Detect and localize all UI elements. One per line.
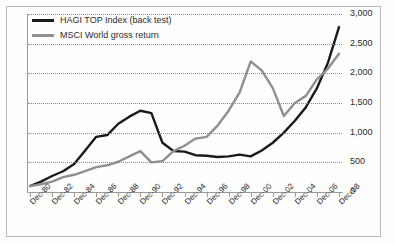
gridline-horizontal [28, 44, 342, 45]
y-axis-tick-label: 1,000 [350, 127, 373, 137]
legend-label-msci: MSCI World gross return [60, 30, 159, 40]
y-axis-tick-label: 1,500 [350, 97, 373, 107]
legend-line-swatch-msci [32, 34, 54, 37]
legend-label-hagi: HAGI TOP Index (back test) [60, 15, 172, 25]
gridline-horizontal [28, 133, 342, 134]
y-axis-tick-label: 2,000 [350, 67, 373, 77]
legend-line-swatch-hagi [32, 19, 54, 22]
y-axis-tick-label: 2,500 [350, 38, 373, 48]
y-axis-tick-label: 3,000 [350, 8, 373, 18]
legend-item-msci: MSCI World gross return [32, 28, 172, 42]
gridline-horizontal [28, 162, 342, 163]
gridline-horizontal [28, 73, 342, 74]
chart-figure: 05001,0001,5002,0002,5003,000 Dec-80Dec-… [0, 0, 395, 244]
legend-item-hagi: HAGI TOP Index (back test) [32, 13, 172, 27]
gridline-horizontal [28, 103, 342, 104]
y-axis-tick-label: 500 [350, 156, 365, 166]
chart-legend: HAGI TOP Index (back test) MSCI World gr… [32, 13, 172, 43]
